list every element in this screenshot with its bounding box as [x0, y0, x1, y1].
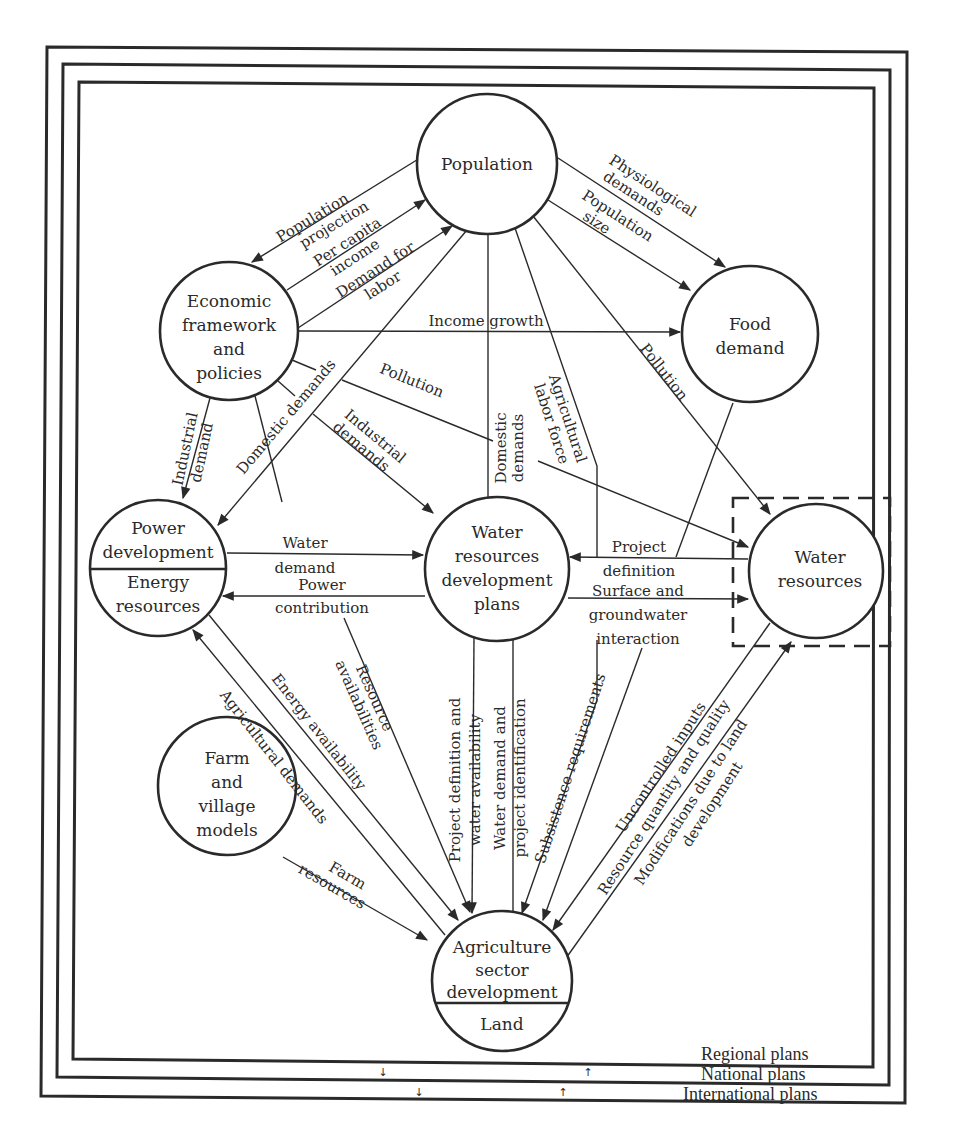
node-water-resources: Water resources — [749, 504, 883, 638]
edge-domestic-demands-wr — [538, 461, 748, 547]
international-plans-label: International plans — [683, 1084, 817, 1104]
node-power-bottom-1: Energy — [127, 572, 189, 592]
node-power-development: Power development Energy resources — [90, 500, 226, 636]
node-food-line-2: demand — [715, 338, 784, 358]
label-water-demand-project-1: Water demand and — [491, 706, 509, 850]
node-wrdp-line-3: development — [441, 570, 552, 590]
node-power-top-1: Power — [131, 518, 186, 538]
label-income-growth: Income growth — [428, 312, 544, 330]
node-power-bottom-2: resources — [116, 596, 201, 616]
node-farm-line-1: Farm — [204, 748, 249, 768]
node-economic-line-3: and — [213, 339, 245, 359]
node-farm-line-3: village — [198, 796, 256, 816]
edge-econ-tick-1 — [292, 360, 316, 370]
up-arrow-icon: ↑ — [583, 1066, 592, 1079]
node-agriculture-bottom-1: Land — [480, 1014, 523, 1034]
down-arrow-icon: ↓ — [414, 1086, 423, 1099]
node-wrdp-line-4: plans — [474, 594, 520, 614]
label-water-demand-2: demand — [275, 559, 336, 577]
up-arrow-icon: ↑ — [558, 1086, 567, 1099]
node-farm-line-2: and — [211, 772, 243, 792]
label-domestic-demands-wr-2: demands — [509, 414, 527, 483]
node-water-resources-line-1: Water — [794, 547, 846, 567]
node-agriculture-top-3: development — [446, 982, 557, 1002]
edge-water-demand — [227, 553, 423, 555]
national-plans-label: National plans — [701, 1064, 805, 1084]
label-project-def-water-2: water availability — [466, 713, 484, 846]
edge-econ-tick-2 — [278, 381, 295, 396]
node-agriculture-sector: Agriculture sector development Land — [432, 911, 572, 1051]
node-economic-line-1: Economic — [187, 291, 271, 311]
node-economic-framework: Economic framework and policies — [160, 262, 298, 400]
label-water-demand-project-2: project identification — [511, 698, 529, 857]
node-economic-line-2: framework — [182, 315, 277, 335]
node-population: Population — [417, 94, 557, 234]
label-power-contribution-2: contribution — [275, 599, 369, 617]
node-food-demand: Food demand — [682, 266, 818, 402]
node-wrdp-line-2: resources — [455, 546, 540, 566]
label-project-definition-2: definition — [603, 562, 676, 580]
edge-project-definition — [570, 557, 748, 559]
node-power-top-2: development — [102, 542, 213, 562]
label-surface-groundwater-1: Surface and — [592, 582, 684, 600]
node-farm-line-4: models — [196, 820, 257, 840]
node-farm-village-models: Farm and village models — [158, 717, 296, 855]
node-water-resources-development-plans: Water resources development plans — [425, 497, 569, 641]
label-domestic-demands-wr-1: Domestic — [492, 412, 510, 483]
edge-income-growth — [298, 331, 680, 332]
label-surface-groundwater-3: interaction — [596, 630, 680, 648]
water-planning-diagram: Regional plans National plans Internatio… — [0, 0, 971, 1143]
label-pollution-center: Pollution — [377, 359, 446, 401]
node-economic-line-4: policies — [196, 363, 262, 383]
node-agriculture-top-2: sector — [475, 960, 529, 980]
edge-food-demand-down — [676, 403, 733, 557]
label-surface-groundwater-2: groundwater — [589, 606, 688, 624]
node-water-resources-line-2: resources — [778, 571, 863, 591]
label-project-def-water-1: Project definition and — [446, 697, 464, 862]
regional-plans-label: Regional plans — [701, 1044, 808, 1064]
node-wrdp-line-1: Water — [471, 522, 523, 542]
node-agriculture-top-1: Agriculture — [452, 937, 552, 957]
label-water-demand-1: Water — [282, 534, 328, 552]
label-project-definition-1: Project — [612, 538, 666, 556]
node-population-label: Population — [441, 154, 533, 174]
node-food-line-1: Food — [729, 314, 771, 334]
label-power-contribution-1: Power — [298, 576, 346, 594]
down-arrow-icon: ↓ — [378, 1066, 387, 1079]
